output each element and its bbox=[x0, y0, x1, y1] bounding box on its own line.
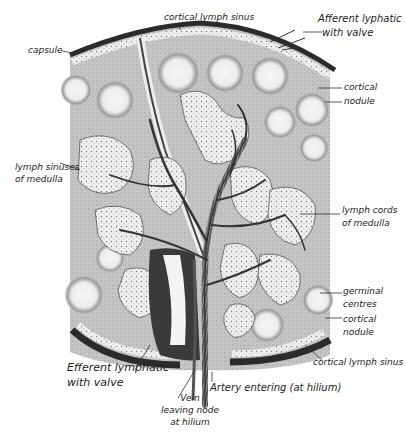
label-afferent-with-valve: with valve bbox=[322, 27, 373, 39]
label-cortical-nodule-bottom-2: nodule bbox=[343, 327, 374, 337]
label-lymph-cords-2: of medulla bbox=[342, 218, 390, 228]
label-capsule: capsule bbox=[28, 45, 63, 55]
label-afferent-lymphatic: Afferent lyphatic bbox=[318, 13, 402, 25]
label-efferent-with-valve: with valve bbox=[67, 377, 123, 390]
lymph-node-diagram: cortical lymph sinus Afferent lyphatic w… bbox=[0, 0, 406, 440]
label-cortical-nodule-bottom-1: cortical bbox=[343, 314, 376, 324]
label-efferent-lymphatic: Efferent lymphatic bbox=[67, 362, 169, 375]
label-cortical-lymph-sinus-bottom: cortical lymph sinus bbox=[313, 357, 403, 367]
label-cortical-nodule-top-1: cortical bbox=[344, 82, 377, 92]
label-germinal-centres-2: centres bbox=[343, 299, 377, 309]
label-lymph-sinuses-2: of medulla bbox=[15, 174, 63, 184]
label-vein-1: Vein bbox=[155, 393, 225, 403]
label-cortical-lymph-sinus-top: cortical lymph sinus bbox=[164, 12, 254, 22]
label-cortical-nodule-top-2: nodule bbox=[344, 96, 375, 106]
label-vein-3: at hilium bbox=[155, 417, 225, 427]
hilum bbox=[149, 248, 200, 360]
label-lymph-cords-1: lymph cords bbox=[342, 205, 397, 215]
label-vein-2: leaving node bbox=[145, 405, 235, 415]
label-lymph-sinuses-1: lymph sinuses bbox=[15, 162, 79, 172]
label-artery-entering: Artery entering (at hilium) bbox=[210, 382, 341, 394]
label-germinal-centres-1: germinal bbox=[343, 286, 383, 296]
